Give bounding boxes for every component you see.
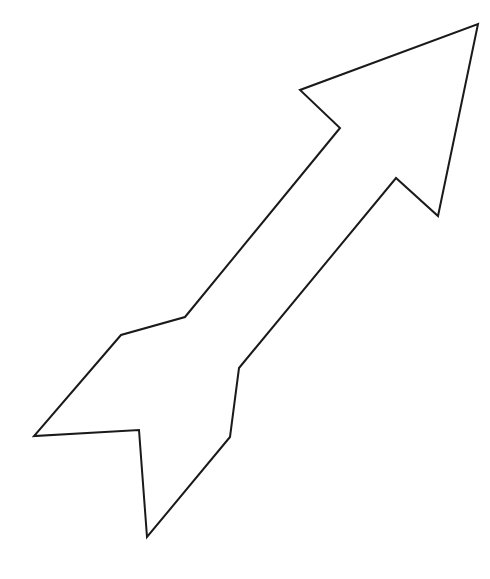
arrow-outline-shape [34, 24, 478, 537]
arrow-drawing [0, 0, 490, 579]
drawing-canvas [0, 0, 490, 579]
